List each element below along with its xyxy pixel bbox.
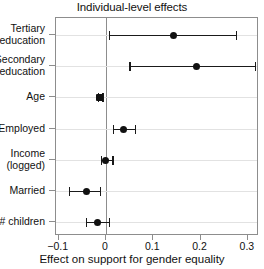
- y-axis-tick: [49, 221, 55, 222]
- y-axis-tick: [49, 190, 55, 191]
- data-row: [56, 217, 257, 228]
- confidence-interval-cap: [86, 218, 87, 227]
- data-row: [56, 92, 257, 103]
- confidence-interval-cap: [129, 62, 130, 71]
- confidence-interval-cap: [112, 156, 113, 165]
- estimate-point-marker: [96, 94, 103, 101]
- estimate-point-marker: [94, 219, 101, 226]
- x-axis-tick-label: 0.3: [227, 240, 264, 252]
- y-axis-label-line: Tertiary: [11, 22, 45, 34]
- plot-area: [55, 17, 258, 235]
- confidence-interval-bar: [129, 66, 255, 67]
- x-axis-tick-label: 0.1: [132, 240, 172, 252]
- y-axis-label: Secondaryeducation: [0, 53, 45, 77]
- chart-title: Individual-level effects: [0, 1, 264, 13]
- y-axis-label-line: education: [0, 34, 45, 46]
- data-row: [56, 186, 257, 197]
- y-axis-tick: [49, 65, 55, 66]
- coefficient-plot-figure: Individual-level effects Effect on suppo…: [0, 0, 264, 269]
- y-axis-label: # children: [0, 215, 45, 227]
- confidence-interval-cap: [113, 125, 114, 134]
- confidence-interval-cap: [109, 31, 110, 40]
- x-axis-tick-label: −0.1: [38, 240, 78, 252]
- y-axis-label-line: Age: [26, 90, 45, 102]
- x-axis-tick-label: 0: [85, 240, 125, 252]
- estimate-point-marker: [102, 157, 109, 164]
- y-axis-label: Income(logged): [0, 147, 45, 171]
- estimate-point-marker: [170, 32, 177, 39]
- confidence-interval-cap: [69, 187, 70, 196]
- y-axis-label-line: Income: [11, 147, 45, 159]
- y-axis-tick: [49, 128, 55, 129]
- estimate-point-marker: [193, 63, 200, 70]
- y-axis-label: Employed: [0, 122, 45, 134]
- y-axis-tick: [49, 96, 55, 97]
- y-axis-label: Tertiaryeducation: [0, 22, 45, 46]
- y-axis-label-line: # children: [0, 215, 45, 227]
- data-row: [56, 124, 257, 135]
- y-axis-label: Married: [0, 184, 45, 196]
- confidence-interval-cap: [135, 125, 136, 134]
- confidence-interval-cap: [109, 218, 110, 227]
- x-axis-title: Effect on support for gender equality: [0, 253, 264, 265]
- y-axis-label: Age: [0, 90, 45, 102]
- x-axis-tick-label: 0.2: [180, 240, 220, 252]
- estimate-point-marker: [120, 126, 127, 133]
- y-axis-label-line: Married: [9, 184, 45, 196]
- data-row: [56, 61, 257, 72]
- y-axis-label-line: education: [0, 65, 45, 77]
- y-axis-tick: [49, 34, 55, 35]
- confidence-interval-cap: [100, 187, 101, 196]
- data-row: [56, 30, 257, 41]
- confidence-interval-cap: [255, 62, 256, 71]
- confidence-interval-cap: [236, 31, 237, 40]
- data-row: [56, 155, 257, 166]
- y-axis-label-line: Secondary: [0, 53, 45, 65]
- estimate-point-marker: [83, 188, 90, 195]
- y-axis-label-line: (logged): [0, 159, 45, 171]
- y-axis-label-line: Employed: [0, 122, 45, 134]
- y-axis-tick: [49, 159, 55, 160]
